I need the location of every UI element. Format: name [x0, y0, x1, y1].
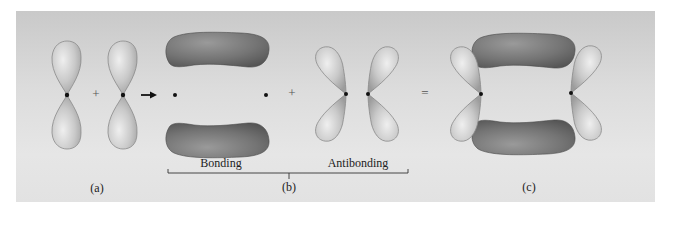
panel-a-label: (a) — [90, 181, 103, 196]
plus-operator-1: + — [92, 86, 99, 102]
antibonding-orbital — [316, 47, 399, 141]
p-orbital-1 — [52, 41, 81, 149]
panel-c-label: (c) — [522, 180, 535, 195]
antibonding-label: Antibonding — [328, 156, 389, 171]
combined-orbital — [451, 33, 602, 155]
bonding-orbital — [166, 32, 269, 158]
panel-b-label: (b) — [282, 180, 296, 195]
equals-operator: = — [421, 85, 428, 101]
bonding-label: Bonding — [200, 156, 241, 171]
p-orbital-2 — [108, 41, 137, 149]
arrow-icon — [141, 92, 157, 99]
plus-operator-2: + — [288, 85, 295, 101]
